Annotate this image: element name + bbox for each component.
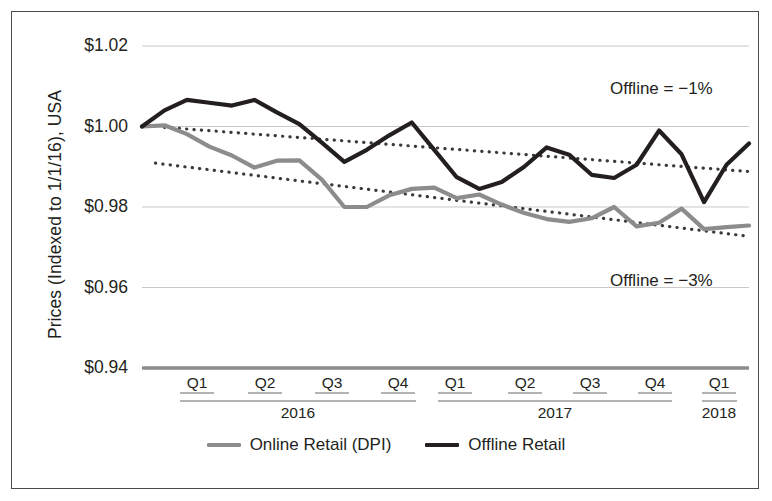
x-axis-year-label: 2018 [679,404,759,422]
x-axis-quarter-label: Q1 [435,374,475,392]
chart-annotation: Offline = −3% [610,271,713,291]
x-axis-quarter-label: Q2 [505,374,545,392]
legend-label: Online Retail (DPI) [250,435,392,455]
chart-frame: Prices (Indexed to 1/1/16), USA $1.02$1.… [11,11,759,489]
x-axis-year-label: 2017 [515,404,595,422]
chart-annotation: Offline = −1% [610,79,713,99]
y-axis-tick-label: $0.96 [42,277,128,298]
x-axis-rules [180,393,737,401]
legend-item[interactable]: Offline Retail [425,435,565,455]
legend-swatch-icon [425,443,459,448]
y-axis-tick-label: $0.98 [42,196,128,217]
x-axis-year-label: 2016 [258,404,338,422]
series-line [142,125,749,229]
legend-label: Offline Retail [468,435,565,455]
x-axis-quarter-label: Q2 [245,374,285,392]
legend-item[interactable]: Online Retail (DPI) [207,435,392,455]
y-axis-tick-label: $0.94 [42,357,128,378]
y-axis-tick-label: $1.00 [42,116,128,137]
x-axis-quarter-label: Q4 [635,374,675,392]
x-axis-quarter-label: Q3 [312,374,352,392]
x-axis-quarter-label: Q4 [378,374,418,392]
series-line [142,100,749,202]
x-axis-quarter-label: Q1 [699,374,739,392]
y-axis-tick-label: $1.02 [42,35,128,56]
legend-swatch-icon [207,443,241,448]
x-axis-quarter-label: Q3 [570,374,610,392]
x-axis-quarter-label: Q1 [177,374,217,392]
chart-legend: Online Retail (DPI)Offline Retail [12,435,759,455]
